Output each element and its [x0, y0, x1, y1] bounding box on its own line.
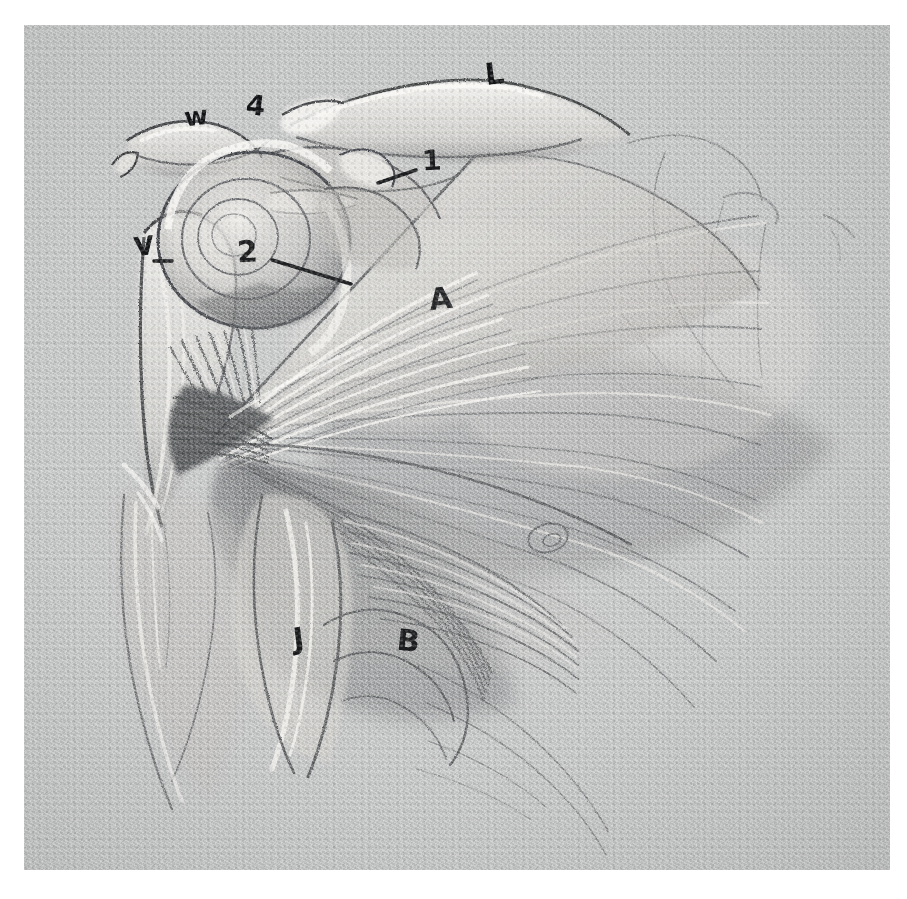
annotation-label-1: 1 [421, 146, 442, 175]
toned-paper-sheet: w 4 L 1 V 2 A J B [24, 25, 890, 870]
annotation-label-b: B [395, 624, 421, 656]
annotation-label-4: 4 [245, 91, 267, 121]
annotation-label-v: V [132, 232, 155, 260]
screenshot-canvas: w 4 L 1 V 2 A J B [0, 0, 907, 899]
annotation-label-w: w [183, 101, 210, 130]
anatomical-sketch-drawing [24, 25, 890, 870]
annotation-label-2: 2 [236, 236, 258, 267]
annotation-label-a: A [427, 282, 454, 315]
annotation-label-l: L [483, 57, 506, 89]
